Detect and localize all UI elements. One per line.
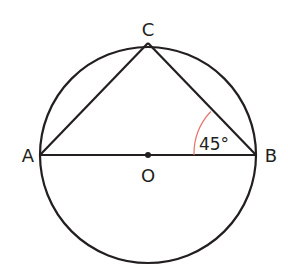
label-a: A [22, 145, 35, 166]
angle-label: 45° [199, 134, 229, 154]
label-b: B [265, 145, 277, 166]
center-point-o [145, 152, 151, 158]
label-c: C [142, 19, 155, 40]
geometry-diagram: C A B O 45° [0, 0, 288, 279]
label-o: O [141, 165, 155, 186]
